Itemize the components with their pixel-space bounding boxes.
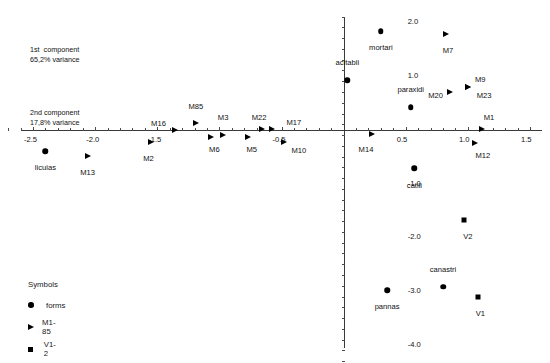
data-point-m23[interactable]	[465, 84, 471, 90]
data-point-paraxidi[interactable]	[408, 104, 414, 110]
data-point-m13[interactable]	[85, 153, 91, 159]
x-tick-label: 1.0	[459, 135, 470, 144]
x-axis-tick	[356, 128, 357, 131]
data-point-m6[interactable]	[208, 134, 214, 140]
data-point-label-m9: M9	[475, 75, 486, 84]
data-point-v1[interactable]	[475, 294, 480, 299]
x-axis-tick	[406, 127, 407, 131]
data-point-m1[interactable]	[479, 126, 485, 132]
data-point-m85[interactable]	[193, 120, 199, 126]
data-point-label-v2: V2	[463, 232, 472, 241]
data-point-m16[interactable]	[172, 127, 178, 133]
x-axis-tick	[95, 127, 96, 131]
y-axis-tick	[342, 275, 345, 276]
y-tick-label: -3.0	[408, 286, 421, 295]
x-axis-tick	[306, 128, 307, 131]
y-tick-label: 1.0	[408, 71, 419, 80]
data-point-mortari[interactable]	[378, 28, 384, 34]
data-point-m12[interactable]	[472, 140, 478, 146]
x-tick-label: 1.5	[521, 135, 532, 144]
data-point-label-m12: M12	[475, 151, 490, 160]
data-point-label-m7: M7	[443, 46, 454, 55]
y-axis-tick	[342, 27, 345, 28]
x-axis-tick	[207, 128, 208, 131]
y-axis-tick	[342, 210, 345, 211]
y-axis-tick	[342, 350, 345, 351]
data-point-label-m10: M10	[292, 146, 307, 155]
x-axis-tick	[431, 128, 432, 131]
square-icon	[28, 347, 44, 352]
x-axis-tick	[393, 128, 394, 131]
data-point-m22[interactable]	[259, 126, 265, 132]
legend-item-m-range: M1-85	[28, 321, 59, 333]
y-axis-tick	[342, 221, 345, 222]
data-point-m17[interactable]	[269, 126, 275, 132]
data-point-m14[interactable]	[369, 131, 375, 137]
x-axis-tick	[132, 128, 133, 131]
data-point-label-canastri: canastri	[430, 265, 457, 274]
y-axis-tick	[342, 232, 345, 233]
x-axis-tick	[493, 128, 494, 131]
x-axis-tick	[108, 128, 109, 131]
x-axis-tick	[219, 127, 220, 131]
data-point-pannas[interactable]	[384, 287, 390, 293]
x-tick-label: -2.0	[86, 135, 99, 144]
legend-label-m-range: M1-85	[42, 318, 59, 336]
x-axis-tick	[83, 128, 84, 131]
x-tick-label: 0.5	[397, 135, 408, 144]
y-axis-tick	[342, 329, 345, 330]
x-axis-tick	[170, 128, 171, 131]
y-axis-tick	[342, 49, 345, 50]
first-component-label: 1st component	[30, 45, 79, 54]
data-point-m20[interactable]	[447, 89, 453, 95]
data-point-m3[interactable]	[220, 132, 226, 138]
x-axis-tick	[381, 128, 382, 131]
data-point-label-licuias: licuias	[35, 163, 56, 172]
x-axis-tick	[331, 128, 332, 131]
x-axis-tick	[294, 128, 295, 131]
y-axis-tick	[342, 17, 345, 18]
y-axis-tick	[342, 114, 345, 115]
y-axis-tick	[342, 243, 345, 244]
first-component-variance: 65,2% variance	[30, 55, 80, 64]
x-axis-tick	[145, 128, 146, 131]
data-point-label-m6: M6	[209, 145, 220, 154]
data-point-m5[interactable]	[245, 134, 251, 140]
data-point-catili[interactable]	[412, 166, 418, 172]
y-axis-tick	[342, 253, 345, 254]
legend-item-forms: forms	[28, 299, 66, 311]
data-point-label-m1: M1	[484, 113, 495, 122]
data-point-m10[interactable]	[281, 139, 287, 145]
data-point-label-mortari: mortari	[369, 43, 393, 52]
legend-label-v-range: V1-2	[44, 340, 58, 358]
data-point-label-m85: M85	[188, 102, 203, 111]
data-point-label-m14: M14	[359, 145, 374, 154]
circle-icon	[28, 302, 46, 308]
y-tick-label: 2.0	[408, 17, 419, 26]
data-point-label-m2: M2	[143, 154, 154, 163]
data-point-label-pannas: pannas	[375, 302, 400, 311]
data-point-canastri[interactable]	[440, 284, 446, 290]
y-axis-tick	[342, 103, 345, 104]
x-axis-tick	[244, 128, 245, 131]
x-axis-tick	[257, 128, 258, 131]
legend-label-forms: forms	[46, 301, 66, 310]
data-point-m7[interactable]	[443, 31, 449, 37]
data-point-label-m17: M17	[287, 118, 302, 127]
y-axis-tick	[342, 297, 345, 298]
y-axis-tick	[342, 307, 345, 308]
data-point-label-m13: M13	[80, 168, 95, 177]
y-tick-label: -2.0	[408, 232, 421, 241]
pca-scatter-plot: -2.5-2.0-1.5-0.50.51.01.52.01.0-1.0-2.0-…	[0, 0, 550, 363]
x-axis-tick	[443, 128, 444, 131]
data-point-label-m16: M16	[151, 119, 166, 128]
data-point-acitabli[interactable]	[345, 77, 351, 83]
x-axis-tick	[468, 127, 469, 131]
x-axis-tick	[282, 127, 283, 131]
legend-title: Symbols	[28, 280, 58, 289]
data-point-label-v1: V1	[476, 309, 485, 318]
data-point-m2[interactable]	[148, 139, 154, 145]
data-point-label-m20: M20	[428, 91, 443, 100]
x-axis-tick	[518, 128, 519, 131]
data-point-v2[interactable]	[462, 218, 467, 223]
